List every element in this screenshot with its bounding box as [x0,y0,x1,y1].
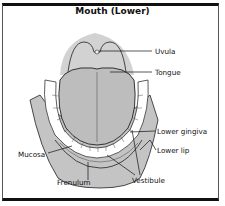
mouth-diagram [0,0,225,206]
label-lower-gingiva: Lower gingiva [157,127,207,136]
label-tongue: Tongue [155,68,181,77]
uvula [95,50,99,54]
label-mucosa: Mucosa [18,150,45,159]
label-frenulum: Frenulum [57,178,91,187]
label-lower-lip: Lower lip [157,146,189,155]
label-uvula: Uvula [155,47,175,56]
label-vestibule: Vestibule [132,176,165,185]
